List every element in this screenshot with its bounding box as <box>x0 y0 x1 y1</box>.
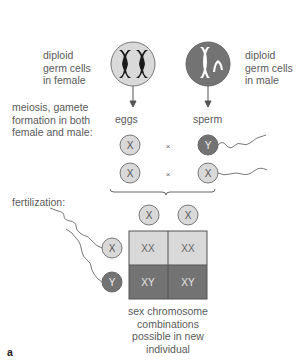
column-header-label: X <box>185 210 192 221</box>
cross-symbol: × <box>166 170 171 179</box>
fertilization-label: fertilization: <box>12 196 65 209</box>
male-germ-label: diploid germ cells in male <box>245 49 293 87</box>
sperm-label: Y <box>205 140 212 151</box>
punnett-cell: XY <box>181 277 195 288</box>
arrow-down-icon <box>205 86 211 107</box>
male-germ-cell <box>186 42 230 86</box>
eggs-label: eggs <box>115 113 138 126</box>
meiosis-label: meiosis, gamete formation in both female… <box>12 101 93 139</box>
bracket-line <box>110 189 215 195</box>
row-header-label: Y <box>109 277 116 288</box>
punnett-square <box>129 231 207 299</box>
panel-letter: a <box>7 346 13 359</box>
punnett-cell: XX <box>181 243 195 254</box>
cross-symbol: × <box>166 142 171 151</box>
egg-label: X <box>127 140 134 151</box>
column-header-label: X <box>146 210 153 221</box>
female-germ-label: diploid germ cells in female <box>43 49 91 87</box>
female-germ-cell <box>111 42 155 86</box>
punnett-cell: XX <box>141 243 155 254</box>
punnett-cell: XY <box>141 277 155 288</box>
sperm-label: X <box>205 168 212 179</box>
egg-label: X <box>127 168 134 179</box>
sperm-label-heading: sperm <box>193 113 222 126</box>
arrow-down-icon <box>130 86 136 107</box>
combinations-label: sex chromosome combinations possible in … <box>112 305 224 355</box>
row-header-label: X <box>109 243 116 254</box>
